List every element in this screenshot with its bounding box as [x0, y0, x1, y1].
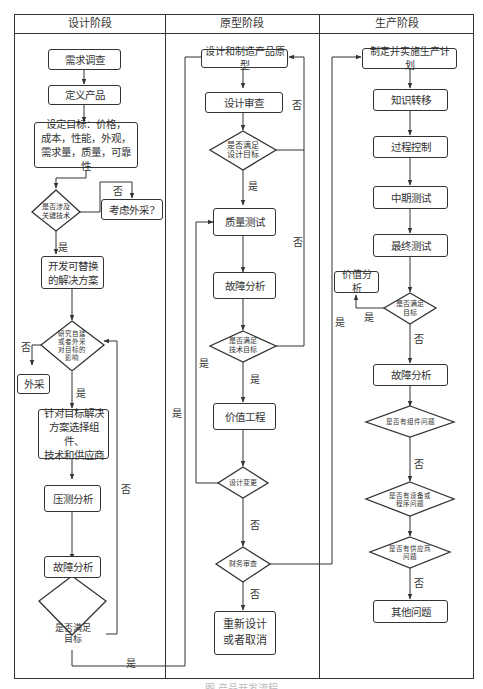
step-select-components: 针对目标解决 方案选择组件、 技术和供应商 — [38, 409, 109, 459]
step-other-issues: 其他问题 — [373, 600, 448, 623]
edge-label-no-key-tech: 否 — [113, 183, 123, 198]
edge-label-no-make-or-buy: 否 — [21, 339, 31, 354]
decision-supplier-label: 是否有供应商 问题 — [382, 544, 438, 562]
edge-label-yes-meet-design: 是 — [248, 178, 258, 193]
set-goals-line1: 设定目标：价格， — [46, 117, 126, 131]
step-value-engineering: 价值工程 — [213, 403, 276, 430]
edge-label-no-meet-tech: 否 — [293, 234, 303, 249]
edge-label-yes-key-tech: 是 — [58, 239, 68, 254]
figure-caption: 图 产品开发流程 — [0, 683, 483, 689]
edge-label-yes-meet-tech: 是 — [250, 371, 260, 386]
decision-meet-design-label: 是否满足 设计目标 — [222, 139, 264, 161]
decision-equipment-label: 是否有设备或 程序问题 — [380, 491, 440, 509]
step-consider-outsource: 考虑外采? — [101, 199, 163, 220]
decision-design-goals-label: 是否满足 目标 — [50, 622, 96, 646]
edge-label-yes-finance: 是 — [335, 314, 345, 329]
step-quality-test: 质量测试 — [213, 208, 276, 236]
set-goals-line2: 成本，性能，外观， — [41, 131, 131, 145]
edge-label-yes-outer: 是 — [172, 405, 182, 420]
edge-label-yes-design-goals: 是 — [126, 655, 136, 670]
decision-finance-label: 财务审查 — [224, 558, 262, 570]
edge-label-yes-make-or-buy: 是 — [76, 385, 86, 400]
decision-key-tech-label: 是否涉及 关键技术 — [34, 200, 78, 224]
set-goals-line3: 需求量，质量，可靠性 — [37, 145, 135, 173]
step-value-analysis: 价值分析 — [334, 271, 379, 293]
step-build-prototype: 设计和制造产品原型 — [201, 49, 288, 68]
decision-design-change-label: 设计变更 — [224, 477, 262, 489]
step-stress-analysis: 压测分析 — [44, 485, 101, 512]
edge-label-no-supplier: 否 — [414, 575, 424, 590]
step-failure-analysis-prod: 故障分析 — [373, 364, 448, 386]
step-alt-solution: 开发可替换 的解决方案 — [41, 256, 104, 289]
step-failure-analysis-proto: 故障分析 — [213, 272, 276, 299]
step-redesign-or-cancel: 重新设计 或者取消 — [214, 611, 276, 655]
step-final-test: 最终测试 — [373, 234, 448, 257]
decision-make-or-buy-label: 研究自建 或者外采 对目标的 影响 — [52, 328, 92, 364]
decision-prod-goals-label: 是否满足 目标 — [390, 300, 430, 318]
edge-label-yes-prod-goals: 是 — [364, 309, 374, 324]
step-production-plan: 制定并实施生产计划 — [362, 48, 457, 69]
step-midterm-test: 中期测试 — [373, 186, 448, 209]
step-process-control: 过程控制 — [373, 136, 448, 158]
step-knowledge-transfer: 知识转移 — [373, 89, 448, 111]
edge-label-no-design-goals: 否 — [121, 481, 131, 496]
edge-label-no-meet-design: 否 — [292, 97, 302, 112]
step-demand-survey: 需求调查 — [48, 49, 121, 70]
edge-label-yes-design-change: 是 — [199, 355, 209, 370]
decision-component-label: 是否有组件问题 — [374, 416, 446, 428]
edge-label-no-design-change: 否 — [250, 517, 260, 532]
step-failure-analysis-design: 故障分析 — [44, 556, 101, 578]
step-define-product: 定义产品 — [48, 85, 121, 105]
decision-meet-tech-label: 是否满足 技术目标 — [222, 337, 264, 355]
step-design-review: 设计审查 — [205, 92, 283, 113]
edge-label-no-prod-goals: 否 — [414, 331, 424, 346]
step-set-goals: 设定目标：价格， 成本，性能，外观， 需求量，质量，可靠性 — [34, 122, 138, 168]
step-outsource: 外采 — [17, 374, 50, 394]
edge-label-no-finance: 否 — [250, 586, 260, 601]
edge-label-no-component: 否 — [414, 456, 424, 471]
